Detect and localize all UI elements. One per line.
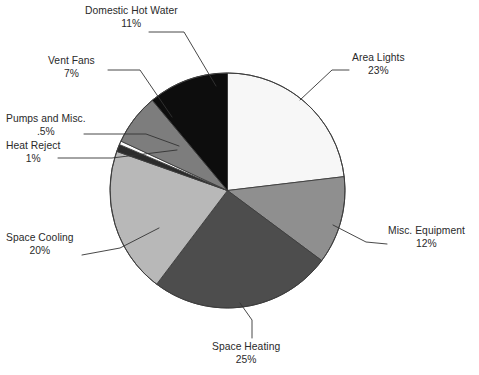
callout-heat-reject: Heat Reject 1%	[6, 140, 60, 165]
leader-line-misc-equipment	[333, 225, 387, 244]
callout-label-area-lights: Area Lights	[352, 52, 405, 65]
callout-pumps-and-misc: Pumps and Misc. .5%	[6, 113, 86, 138]
callout-label-pumps-and-misc: Pumps and Misc.	[6, 113, 86, 126]
callout-percent-space-cooling: 20%	[6, 245, 74, 258]
callout-label-heat-reject: Heat Reject	[6, 140, 60, 153]
callout-percent-space-heating: 25%	[212, 354, 280, 367]
pie-slice-area-lights[interactable]	[228, 73, 345, 191]
leader-line-area-lights	[300, 70, 349, 100]
callout-label-space-cooling: Space Cooling	[6, 232, 74, 245]
callout-misc-equipment: Misc. Equipment 12%	[388, 225, 465, 250]
leader-line-space-heating	[240, 303, 252, 338]
callout-vent-fans: Vent Fans 7%	[48, 55, 95, 80]
chart-page: Domestic Hot Water 11% Vent Fans 7% Pump…	[0, 0, 479, 375]
callout-label-domestic-hot-water: Domestic Hot Water	[85, 5, 178, 18]
callout-area-lights: Area Lights 23%	[352, 52, 405, 77]
callout-label-misc-equipment: Misc. Equipment	[388, 225, 465, 238]
callout-percent-pumps-and-misc: .5%	[6, 126, 86, 139]
callout-percent-heat-reject: 1%	[6, 153, 60, 166]
callout-percent-vent-fans: 7%	[48, 68, 95, 81]
pie-slices-group	[110, 73, 345, 308]
callout-label-vent-fans: Vent Fans	[48, 55, 95, 68]
callout-percent-area-lights: 23%	[352, 65, 405, 78]
callout-label-space-heating: Space Heating	[212, 341, 280, 354]
callout-percent-misc-equipment: 12%	[388, 238, 465, 251]
callout-domestic-hot-water: Domestic Hot Water 11%	[85, 5, 178, 30]
callout-space-heating: Space Heating 25%	[212, 341, 280, 366]
callout-space-cooling: Space Cooling 20%	[6, 232, 74, 257]
callout-percent-domestic-hot-water: 11%	[85, 18, 178, 31]
